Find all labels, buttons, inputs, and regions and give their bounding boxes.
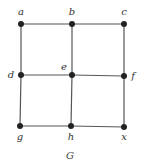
node-label-g: g bbox=[17, 131, 23, 142]
node-h bbox=[68, 123, 74, 129]
node-label-a: a bbox=[18, 6, 24, 17]
edge-e-h bbox=[71, 75, 72, 126]
node-label-h: h bbox=[68, 131, 74, 142]
node-label-d: d bbox=[8, 69, 14, 80]
node-b bbox=[69, 21, 75, 27]
node-label-c: c bbox=[121, 6, 127, 17]
graph-caption: G bbox=[66, 150, 74, 161]
graph-diagram: abcdefghx G bbox=[0, 0, 141, 167]
node-c bbox=[121, 21, 127, 27]
node-label-b: b bbox=[69, 6, 75, 17]
node-a bbox=[18, 21, 24, 27]
node-x bbox=[121, 124, 127, 130]
node-e bbox=[69, 72, 75, 78]
node-label-f: f bbox=[130, 70, 137, 81]
node-label-x: x bbox=[121, 131, 127, 142]
node-d bbox=[18, 72, 24, 78]
node-f bbox=[121, 73, 127, 79]
edge-e-f bbox=[72, 75, 124, 76]
edge-h-x bbox=[71, 126, 124, 127]
node-label-e: e bbox=[61, 61, 67, 72]
edge-d-g bbox=[20, 75, 21, 126]
node-g bbox=[17, 123, 23, 129]
